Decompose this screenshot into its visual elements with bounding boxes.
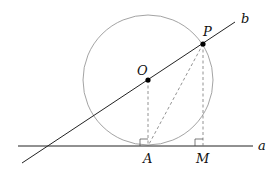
label-O: O (137, 63, 148, 78)
point-O (145, 77, 150, 82)
right-angle-M (195, 139, 203, 146)
label-M: M (195, 151, 210, 166)
label-line-b: b (241, 11, 249, 26)
label-A: A (142, 151, 152, 166)
point-P (200, 41, 205, 46)
geometry-diagram: O P A M a b (0, 0, 277, 171)
label-P: P (202, 24, 212, 39)
segment-PA (148, 44, 203, 146)
label-line-a: a (258, 138, 266, 153)
